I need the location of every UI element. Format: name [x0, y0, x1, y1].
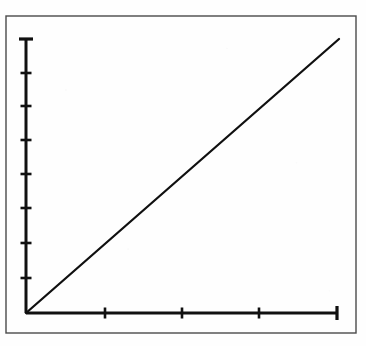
chart-figure: [0, 0, 366, 346]
figure-background: [0, 0, 366, 346]
plot-canvas: [0, 0, 366, 346]
